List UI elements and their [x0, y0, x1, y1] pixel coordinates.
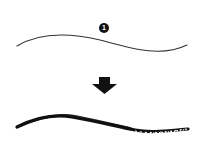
brush-stroke — [17, 115, 188, 133]
step-number-badge: 1 — [99, 23, 109, 33]
thin-curve-stroke — [17, 35, 187, 51]
arrow-down-icon — [92, 77, 117, 94]
